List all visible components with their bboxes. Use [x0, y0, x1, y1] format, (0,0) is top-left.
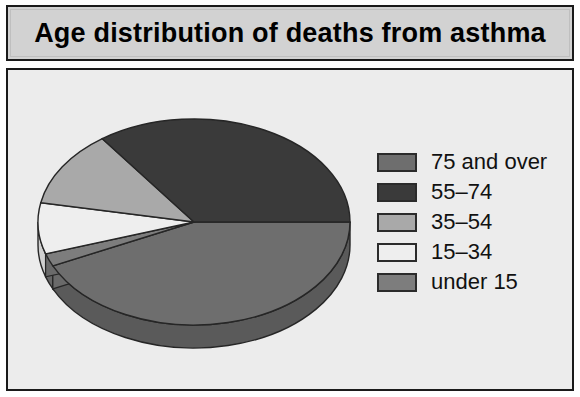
legend-label-35-54: 35–54 [431, 211, 492, 233]
chart-plot-panel: 75 and over 55–74 35–54 15–34 under 15 [6, 68, 574, 391]
legend-swatch-75-and-over [377, 153, 417, 172]
legend-label-55-74: 55–74 [431, 181, 492, 203]
chart-title-panel: Age distribution of deaths from asthma [6, 5, 574, 61]
legend-label-15-34: 15–34 [431, 241, 492, 263]
legend-item-35-54[interactable]: 35–54 [377, 210, 547, 234]
legend-item-15-34[interactable]: 15–34 [377, 240, 547, 264]
legend-item-75-and-over[interactable]: 75 and over [377, 150, 547, 174]
legend-item-55-74[interactable]: 55–74 [377, 180, 547, 204]
legend-label-75-and-over: 75 and over [431, 151, 547, 173]
legend-swatch-under-15 [377, 273, 417, 292]
legend-label-under-15: under 15 [431, 271, 518, 293]
legend-swatch-55-74 [377, 183, 417, 202]
legend-swatch-15-34 [377, 243, 417, 262]
chart-figure: Age distribution of deaths from asthma 7… [0, 0, 580, 397]
chart-legend: 75 and over 55–74 35–54 15–34 under 15 [377, 150, 547, 294]
legend-swatch-35-54 [377, 213, 417, 232]
page-title: Age distribution of deaths from asthma [34, 18, 546, 49]
legend-item-under-15[interactable]: under 15 [377, 270, 547, 294]
